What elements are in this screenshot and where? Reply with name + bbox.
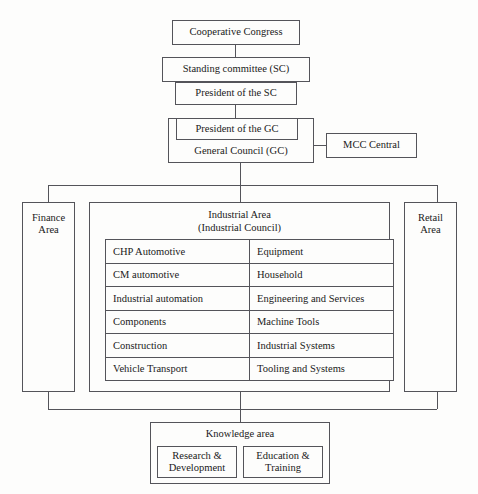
connector-bus-to-retail [437,185,438,202]
connector-congress-to-sc [235,45,236,57]
division-cell-left: Components [106,310,250,334]
division-cell-right: Industrial Systems [250,334,394,358]
connector-bus-to-knowledge [240,409,241,422]
connector-gc-to-mcc [314,145,326,146]
table-row: CM automotive Household [106,263,394,287]
box-president-sc: President of the SC [175,82,297,105]
box-education-training: Education & Training [243,446,323,478]
box-finance-area: Finance Area [22,202,75,392]
division-cell-left: CM automotive [106,263,250,287]
connector-bus-to-finance [48,185,49,202]
bus-bar-knowledge [48,409,437,410]
table-row: Construction Industrial Systems [106,334,394,358]
industrial-divisions-table: CHP Automotive Equipment CM automotive H… [105,239,394,381]
bus-bar-areas [48,185,437,186]
table-row: Vehicle Transport Tooling and Systems [106,357,394,381]
box-research-development: Research & Development [157,446,237,478]
table-row: CHP Automotive Equipment [106,240,394,264]
connector-industrial-to-bottom-bus [240,392,241,409]
industrial-divisions-body: CHP Automotive Equipment CM automotive H… [106,240,394,381]
industrial-area-title: Industrial Area (Industrial Council) [89,209,390,234]
box-standing-committee: Standing committee (SC) [162,57,310,82]
connector-gc-to-bus [240,163,241,185]
box-retail-area: Retail Area [404,202,457,392]
division-cell-right: Household [250,263,394,287]
connector-finance-to-bottom-bus [48,392,49,409]
box-mcc-central: MCC Central [326,133,417,158]
division-cell-left: Construction [106,334,250,358]
box-cooperative-congress: Cooperative Congress [172,20,300,45]
division-cell-right: Machine Tools [250,310,394,334]
division-cell-right: Tooling and Systems [250,357,394,381]
division-cell-right: Engineering and Services [250,287,394,311]
division-cell-left: Industrial automation [106,287,250,311]
connector-sc-to-gc [235,105,236,118]
connector-bus-to-industrial [240,185,241,202]
knowledge-area-title: Knowledge area [150,428,330,441]
division-cell-left: Vehicle Transport [106,357,250,381]
division-cell-left: CHP Automotive [106,240,250,264]
table-row: Components Machine Tools [106,310,394,334]
org-chart-diagram: Cooperative Congress Standing committee … [0,0,478,494]
table-row: Industrial automation Engineering and Se… [106,287,394,311]
division-cell-right: Equipment [250,240,394,264]
connector-retail-to-bottom-bus [437,392,438,409]
box-president-gc: President of the GC [176,118,298,140]
